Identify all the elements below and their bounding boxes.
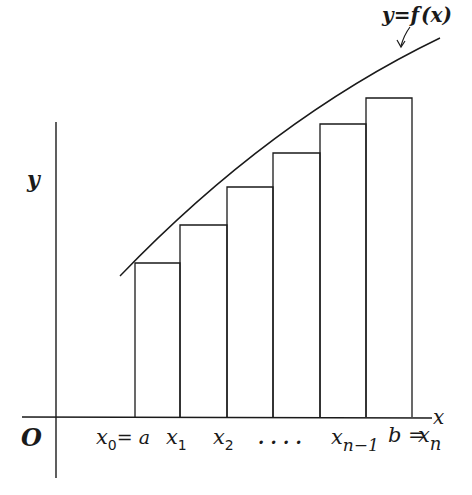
rectangle-3 (227, 187, 273, 417)
origin-label: O (21, 423, 42, 452)
rectangle-2 (180, 225, 227, 417)
rectangle-5 (320, 124, 366, 417)
rectangle-6 (366, 98, 412, 417)
tick-label-ellipsis: . . . . (258, 427, 302, 448)
riemann-sum-diagram: y=f(x) y x O x0= a x1 x2 . . . . xn−1 b … (0, 0, 472, 495)
x-tick-labels: x0= a x1 x2 . . . . xn−1 b = xn (96, 423, 441, 455)
curve-label: y=f(x) (381, 3, 452, 27)
tick-label-x1: x1 (166, 425, 187, 453)
tick-label-x2: x2 (213, 425, 234, 453)
tick-label-x0: x0= a (96, 425, 150, 453)
riemann-rectangles (135, 98, 412, 417)
x-axis (22, 417, 432, 418)
rectangle-1 (135, 263, 180, 417)
curve-f (120, 38, 440, 276)
tick-label-xn-1: xn−1 (331, 425, 379, 455)
x-axis-label: x (433, 405, 444, 429)
y-axis-label: y (26, 166, 42, 192)
rectangle-4 (273, 153, 320, 417)
arrow-icon (397, 27, 410, 47)
